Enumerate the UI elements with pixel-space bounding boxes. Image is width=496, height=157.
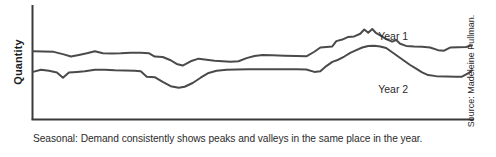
seasonal-demand-figure: Quantity Year 1 Year 2 Seasonal: Demand … xyxy=(0,0,496,157)
source-credit: Source: Madeleine Pullman. xyxy=(466,0,476,147)
series-label-year-2: Year 2 xyxy=(378,83,408,95)
figure-caption: Seasonal: Demand consistently shows peak… xyxy=(33,133,422,144)
series-label-year-1: Year 1 xyxy=(378,30,408,42)
